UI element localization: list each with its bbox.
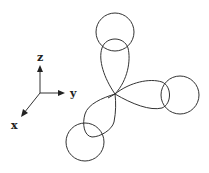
x-axis bbox=[24, 93, 40, 113]
right-circle bbox=[161, 76, 199, 114]
y-arrowhead-icon bbox=[58, 90, 65, 96]
top-circle bbox=[96, 13, 134, 51]
x-arrowhead-icon bbox=[21, 109, 28, 117]
y-axis-label: y bbox=[69, 87, 77, 100]
z-arrowhead-icon bbox=[37, 65, 43, 72]
top-lobe bbox=[101, 39, 129, 94]
bottom-left-circle bbox=[66, 123, 104, 161]
z-axis-label: z bbox=[37, 51, 43, 64]
diagram-canvas: z y x bbox=[0, 0, 209, 173]
x-axis-label: x bbox=[11, 119, 18, 132]
